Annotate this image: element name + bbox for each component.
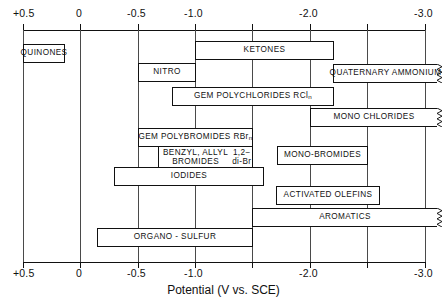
tick-bottom-6 xyxy=(367,262,368,268)
range-bar-quaternary-ammonium[interactable]: QUATERNARY AMMONIUM xyxy=(333,64,437,83)
range-bar-organo-sulfur-label: ORGANO - SULFUR xyxy=(134,233,216,242)
tick-label-top-1: 0 xyxy=(76,7,82,19)
range-bar-ketones[interactable]: KETONES xyxy=(195,41,334,60)
tick-bottom-4 xyxy=(252,262,253,268)
tick-label-bottom-7: -3.0 xyxy=(414,267,433,279)
torn-edge-icon xyxy=(436,208,444,227)
gridline-0 xyxy=(23,30,24,262)
range-bar-quaternary-ammonium-label: QUATERNARY AMMONIUM xyxy=(330,69,442,78)
range-bar-mono-bromides-label: MONO-BROMIDES xyxy=(284,151,361,160)
range-bar-aromatics-label: AROMATICS xyxy=(319,213,371,222)
tick-label-bottom-1: 0 xyxy=(76,267,82,279)
range-bar-mono-chlorides[interactable]: MONO CHLORIDES xyxy=(310,108,437,127)
tick-label-bottom-2: -0.5 xyxy=(127,267,146,279)
range-bar-gem-polychlorides[interactable]: GEM POLYCHLORIDES RCln xyxy=(172,87,334,106)
torn-edge-icon xyxy=(436,108,444,127)
range-bar-iodides[interactable]: IODIDES xyxy=(114,167,264,186)
range-bar-dibromide-label: 1,2− di-Br xyxy=(228,149,256,166)
range-bar-mono-chlorides-label: MONO CHLORIDES xyxy=(333,113,414,122)
potential-window-chart: +0.5 0 -0.5 -1.0 -2.0 -3.0 +0.5 0 -0.5 -… xyxy=(0,0,447,307)
range-bar-activated-olefins[interactable]: ACTIVATED OLEFINS xyxy=(276,186,380,205)
tick-label-top-0: +0.5 xyxy=(13,7,35,19)
tick-label-top-7: -3.0 xyxy=(414,7,433,19)
range-bar-gem-polybromides[interactable]: GEM POLYBROMIDES RBrn xyxy=(138,128,253,147)
range-bar-aromatics[interactable]: AROMATICS xyxy=(252,208,437,227)
range-bar-activated-olefins-label: ACTIVATED OLEFINS xyxy=(284,191,373,200)
range-bar-gem-polybromides-label: GEM POLYBROMIDES RBrn xyxy=(138,133,252,142)
x-axis-title: Potential (V vs. SCE) xyxy=(0,283,447,297)
range-bar-quinones[interactable]: QUINONES xyxy=(23,44,65,63)
tick-label-bottom-5: -2.0 xyxy=(299,267,318,279)
range-bar-iodides-label: IODIDES xyxy=(171,172,207,181)
tick-label-bottom-3: -1.0 xyxy=(184,267,203,279)
axis-line-bottom xyxy=(23,262,425,263)
axis-line-top xyxy=(23,30,425,31)
range-bar-mono-bromides[interactable]: MONO-BROMIDES xyxy=(277,146,368,165)
range-bar-nitro-label: NITRO xyxy=(153,68,180,77)
range-bar-organo-sulfur[interactable]: ORGANO - SULFUR xyxy=(97,228,253,247)
tick-label-top-2: -0.5 xyxy=(127,7,146,19)
gridline-1 xyxy=(80,30,81,262)
range-bar-nitro[interactable]: NITRO xyxy=(138,63,196,82)
range-bar-quinones-label: QUINONES xyxy=(21,49,68,58)
range-bar-benzyl-allyl-bromides-label: BENZYL, ALLYL BROMIDES xyxy=(159,149,228,166)
range-bar-ketones-label: KETONES xyxy=(244,46,286,55)
plot-area: +0.5 0 -0.5 -1.0 -2.0 -3.0 +0.5 0 -0.5 -… xyxy=(0,0,447,307)
tick-label-top-5: -2.0 xyxy=(299,7,318,19)
range-bar-gem-polychlorides-label: GEM POLYCHLORIDES RCln xyxy=(194,92,312,101)
tick-label-bottom-0: +0.5 xyxy=(13,267,35,279)
tick-label-top-3: -1.0 xyxy=(184,7,203,19)
